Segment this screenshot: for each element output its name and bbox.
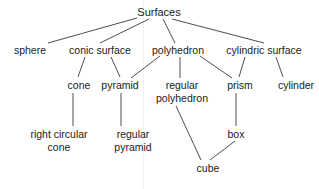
- edge-regular-polyhedron-to-cube: [176, 106, 201, 160]
- node-label-line: prism: [227, 79, 253, 92]
- node-label-line: box: [228, 128, 245, 141]
- surfaces-hierarchy-diagram: Surfacessphereconic surfacepolyhedroncyl…: [0, 0, 319, 189]
- node-label-line: conic surface: [69, 44, 131, 57]
- node-label-line: cone: [30, 141, 87, 154]
- node-label-line: regular: [114, 128, 151, 141]
- edge-cylindric-surface-to-cylinder: [276, 57, 283, 77]
- node-cube: cube: [197, 162, 220, 175]
- node-label-line: polyhedron: [156, 92, 208, 105]
- node-polyhedron: polyhedron: [152, 44, 204, 57]
- node-cylinder: cylinder: [278, 79, 314, 92]
- node-conic-surface: conic surface: [69, 44, 131, 57]
- edge-surfaces-to-polyhedron: [163, 19, 175, 43]
- node-label-line: cone: [68, 79, 91, 92]
- node-label-line: cylindric surface: [226, 44, 301, 57]
- edge-polyhedron-to-prism: [200, 56, 232, 78]
- node-cone: cone: [68, 79, 91, 92]
- node-cylindric-surface: cylindric surface: [226, 44, 301, 57]
- node-label-line: regular: [156, 79, 208, 92]
- node-label-line: right circular: [30, 128, 87, 141]
- node-box: box: [228, 128, 245, 141]
- node-label-line: Surfaces: [137, 6, 180, 19]
- node-surfaces: Surfaces: [137, 6, 180, 19]
- edge-surfaces-to-conic-surface: [100, 19, 149, 43]
- node-label-line: cylinder: [278, 79, 314, 92]
- edge-cylindric-surface-to-prism: [239, 57, 245, 77]
- node-label-line: polyhedron: [152, 44, 204, 57]
- node-sphere: sphere: [14, 44, 46, 57]
- node-pyramid: pyramid: [101, 79, 138, 92]
- node-label-line: sphere: [14, 44, 46, 57]
- edge-conic-surface-to-pyramid: [111, 57, 120, 77]
- edge-surfaces-to-cylindric-surface: [172, 19, 264, 43]
- node-right-circular-cone: right circularcone: [30, 128, 87, 154]
- edge-conic-surface-to-cone: [78, 57, 85, 77]
- node-prism: prism: [227, 79, 253, 92]
- node-label-line: cube: [197, 162, 220, 175]
- edge-box-to-cube: [210, 141, 235, 160]
- node-label-line: pyramid: [101, 79, 138, 92]
- node-regular-polyhedron: regularpolyhedron: [156, 79, 208, 105]
- node-label-line: pyramid: [114, 141, 151, 154]
- edge-polyhedron-to-pyramid: [131, 56, 160, 78]
- node-regular-pyramid: regularpyramid: [114, 128, 151, 154]
- edge-surfaces-to-sphere: [48, 18, 137, 43]
